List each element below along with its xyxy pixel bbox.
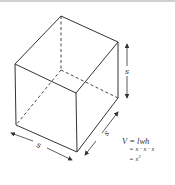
cube-right-face <box>77 42 118 152</box>
depth-dimension <box>85 112 118 155</box>
formula-line-3: = s3 <box>122 153 154 163</box>
height-label: s <box>125 67 129 76</box>
formula-base: = s <box>129 155 138 163</box>
formula-exponent: 3 <box>138 154 141 159</box>
volume-formula: V = lwh = s · s · s = s3 <box>122 137 154 163</box>
width-label: s <box>35 140 42 150</box>
formula-line-1: V = lwh <box>122 137 154 145</box>
cube-top-face <box>15 16 118 93</box>
cube-front-face <box>15 64 77 152</box>
cube-hidden-edges <box>16 16 118 125</box>
formula-line-2: = s · s · s <box>122 145 154 153</box>
width-dimension <box>11 133 72 160</box>
depth-label: s <box>102 129 112 138</box>
